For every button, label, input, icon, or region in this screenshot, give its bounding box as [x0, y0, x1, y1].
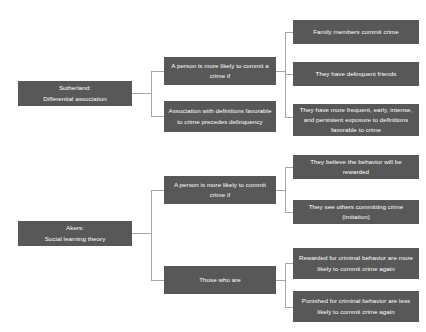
node-frequent-exposure-label: They have more frequent, early, intense,… [297, 105, 415, 136]
connector-akers-to-condition [151, 190, 164, 191]
node-akers-condition-label: A person is more likely to commit crime … [168, 180, 272, 200]
connector-sutherland-root-out [132, 93, 151, 94]
node-delinquent-friends[interactable]: They have delinquent friends [293, 62, 419, 86]
node-akers-condition[interactable]: A person is more likely to commit crime … [164, 176, 276, 204]
connector-sutherland-to-condition [151, 71, 164, 72]
node-sutherland-root-line1: Sutherland: [59, 83, 91, 93]
node-akers-root-line2: Social learning theory [45, 234, 106, 244]
node-those-who-are[interactable]: Those who are [164, 266, 276, 294]
node-frequent-exposure[interactable]: They have more frequent, early, intense,… [293, 104, 419, 136]
connector-sutherland-to-association [151, 116, 164, 117]
node-those-who-are-label: Those who are [199, 275, 241, 285]
node-believe-rewarded[interactable]: They believe the behavior will be reward… [293, 155, 419, 179]
node-association-definitions-label: Association with definitions favorable t… [168, 106, 272, 126]
node-punished-less-likely-label: Punished for criminal behavior are less … [297, 296, 415, 316]
node-family-members-label: Family members commit crime [313, 27, 399, 37]
node-believe-rewarded-label: They believe the behavior will be reward… [297, 157, 415, 177]
node-sutherland-condition-label: A person is more likely to commit a crim… [168, 61, 272, 81]
node-sutherland-root-line2: Differential association [43, 94, 106, 104]
node-association-definitions[interactable]: Association with definitions favorable t… [164, 101, 276, 132]
connector-akers-root-out [132, 233, 151, 234]
connector-akers-condition-spine [285, 167, 286, 212]
node-akers-root-line1: Akers: [66, 223, 84, 233]
node-see-others-label: They see others committing crime (imitat… [297, 202, 415, 222]
node-sutherland-condition[interactable]: A person is more likely to commit a crim… [164, 57, 276, 85]
node-see-others[interactable]: They see others committing crime (imitat… [293, 200, 419, 224]
connector-sutherland-spine [151, 71, 152, 116]
node-akers-root[interactable]: Akers: Social learning theory [18, 221, 132, 246]
connector-akers-spine [151, 190, 152, 280]
node-sutherland-root[interactable]: Sutherland: Differential association [18, 81, 132, 106]
connector-akers-to-those-who-are [151, 280, 164, 281]
connector-those-who-are-spine [285, 263, 286, 307]
node-family-members[interactable]: Family members commit crime [293, 20, 419, 44]
node-rewarded-more-likely[interactable]: Rewarded for criminal behavior are more … [293, 248, 419, 279]
node-punished-less-likely[interactable]: Punished for criminal behavior are less … [293, 291, 419, 322]
node-rewarded-more-likely-label: Rewarded for criminal behavior are more … [297, 253, 415, 273]
diagram-canvas: Sutherland: Differential association A p… [0, 0, 426, 332]
node-delinquent-friends-label: They have delinquent friends [316, 69, 397, 79]
